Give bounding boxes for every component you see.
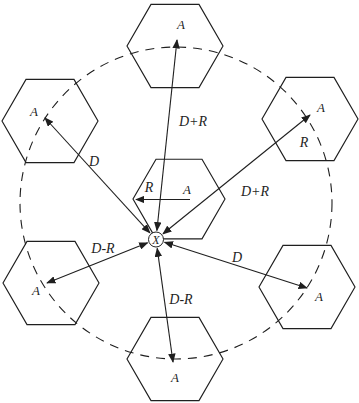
cell-hexagon-upper-left (2, 79, 98, 162)
cell-radius-label: R (144, 180, 154, 195)
distance-label-top: D+R (178, 114, 208, 129)
cell-center-label-center: A (182, 182, 191, 197)
distance-label-bottom: D-R (168, 292, 193, 307)
distance-arrow-upper-right (163, 115, 310, 234)
distance-arrow-top (157, 40, 177, 231)
mobile-station-label: X (151, 233, 160, 247)
cell-hexagon-top (127, 4, 223, 87)
cell-hexagon-lower-left (3, 241, 99, 324)
reuse-distance-ring (20, 47, 332, 359)
distance-label-upper-left: D (88, 154, 99, 169)
cell-center-label-upper-right: A (316, 100, 325, 115)
cell-center-label-upper-left: A (29, 104, 38, 119)
figure-canvas: D+RDD+RD-RDD-RRRAAAAAAAX (0, 0, 359, 403)
cell-center-label-top: A (176, 17, 185, 32)
cochannel-interference-diagram: D+RDD+RD-RDD-RRRAAAAAAAX (0, 0, 359, 403)
remote-cell-radius-label: R (299, 135, 309, 150)
distance-arrow-upper-left (45, 118, 150, 233)
distance-label-lower-left: D-R (90, 241, 115, 256)
distance-label-upper-right: D+R (240, 184, 270, 199)
cell-center-label-lower-left: A (31, 283, 40, 298)
cell-center-label-bottom: A (170, 370, 179, 385)
distance-label-lower-right: D (231, 250, 242, 265)
cell-hexagon-upper-right (262, 77, 358, 160)
cell-center-label-lower-right: A (314, 289, 323, 304)
